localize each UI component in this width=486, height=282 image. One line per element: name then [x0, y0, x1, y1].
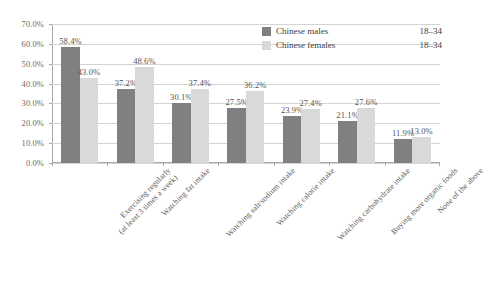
y-axis-tick-label: 20.0%: [22, 118, 44, 128]
bar-group: 37.2%48.6%: [107, 24, 162, 163]
bar[interactable]: 43.0%: [80, 78, 99, 163]
legend-item[interactable]: Chinese males18–34: [262, 25, 442, 37]
bar-value-label: 37.2%: [115, 78, 137, 88]
y-axis-tick-label: 70.0%: [22, 19, 44, 29]
legend-series-name: Chinese females: [276, 40, 335, 50]
gridline: [52, 163, 440, 164]
bar[interactable]: 13.0%: [412, 137, 431, 163]
legend-series-age-range: 18–34: [414, 40, 443, 50]
x-axis-category-label-line1: None of the above: [436, 166, 485, 215]
bar-value-label: 58.4%: [59, 36, 81, 46]
bar-value-label: 27.4%: [299, 98, 321, 108]
bar-value-label: 27.5%: [226, 97, 248, 107]
bar-value-label: 43.0%: [78, 67, 100, 77]
bar-value-label: 36.2%: [244, 80, 266, 90]
bar[interactable]: 37.2%: [117, 89, 136, 163]
bar[interactable]: 27.4%: [301, 109, 320, 163]
y-axis-tick-label: 60.0%: [22, 39, 44, 49]
y-axis-tick-label: 50.0%: [22, 59, 44, 69]
bar[interactable]: 27.5%: [227, 108, 246, 163]
legend-color-swatch: [262, 41, 271, 50]
bar[interactable]: 48.6%: [135, 67, 154, 164]
y-axis-tick-label: 40.0%: [22, 79, 44, 89]
bar-value-label: 30.1%: [170, 92, 192, 102]
bar[interactable]: 11.9%: [394, 139, 413, 163]
x-axis-category-label: Watching salt/sodium intake: [224, 166, 297, 239]
bar[interactable]: 27.6%: [357, 108, 376, 163]
bar-group: 58.4%43.0%: [52, 24, 107, 163]
legend-series-name: Chinese males: [276, 26, 328, 36]
bar-value-label: 48.6%: [133, 56, 155, 66]
y-axis-tick-label: 30.0%: [22, 98, 44, 108]
y-axis: 0.0%10.0%20.0%30.0%40.0%50.0%60.0%70.0%: [0, 24, 48, 163]
bar[interactable]: 37.4%: [191, 89, 210, 163]
y-axis-tick-label: 10.0%: [22, 138, 44, 148]
bar-value-label: 37.4%: [189, 78, 211, 88]
legend-item[interactable]: Chinese females18–34: [262, 39, 442, 51]
x-axis-labels: Exercising regularly(at least 3 times a …: [52, 166, 440, 282]
bar[interactable]: 30.1%: [172, 103, 191, 163]
bar[interactable]: 21.1%: [338, 121, 357, 163]
x-axis-category-label-line1: Watching salt/sodium intake: [224, 166, 297, 239]
legend-color-swatch: [262, 27, 271, 36]
bar[interactable]: 23.9%: [283, 116, 302, 163]
bar[interactable]: 58.4%: [61, 47, 80, 163]
bar[interactable]: 36.2%: [246, 91, 265, 163]
bar-value-label: 13.0%: [410, 126, 432, 136]
bar-value-label: 27.6%: [355, 97, 377, 107]
y-axis-tick-label: 0.0%: [26, 158, 44, 168]
chart-legend: Chinese males18–34Chinese females18–34: [262, 25, 442, 53]
legend-series-age-range: 18–34: [414, 26, 443, 36]
bar-group: 30.1%37.4%: [163, 24, 218, 163]
x-axis-category-label: None of the above: [436, 166, 486, 216]
bar-value-label: 21.1%: [336, 110, 358, 120]
